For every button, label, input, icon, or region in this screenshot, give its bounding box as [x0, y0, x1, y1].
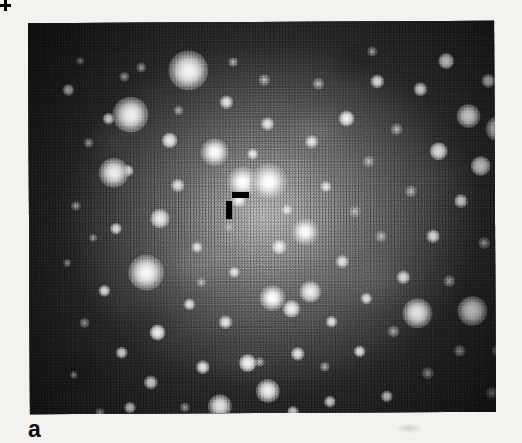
star-point	[402, 298, 432, 328]
star-point	[391, 123, 403, 135]
star-point	[443, 275, 455, 287]
star-point	[218, 315, 232, 329]
tick-horizontal-marker	[232, 192, 249, 198]
star-point	[110, 223, 122, 235]
star-point	[95, 408, 105, 414]
star-point	[305, 135, 319, 149]
panel-label: a	[28, 418, 41, 441]
star-point	[360, 292, 372, 304]
star-point	[349, 206, 361, 218]
astro-image-plate[interactable]	[28, 21, 496, 414]
star-point	[282, 300, 300, 318]
star-point	[255, 357, 265, 367]
vignette-layer	[28, 21, 496, 414]
star-point	[396, 270, 410, 284]
star-point	[62, 84, 74, 96]
star-point	[124, 402, 136, 414]
star-point	[196, 277, 206, 287]
star-point	[119, 72, 129, 82]
star-point	[201, 138, 229, 166]
star-point	[79, 318, 89, 328]
star-point	[454, 194, 468, 208]
star-point	[150, 208, 170, 228]
star-point	[71, 201, 81, 211]
star-point	[76, 57, 84, 65]
star-point	[150, 324, 166, 340]
star-point	[291, 218, 319, 246]
star-point	[250, 163, 288, 201]
star-point	[492, 345, 496, 357]
star-point	[224, 222, 234, 232]
star-point	[320, 362, 330, 372]
star-point	[173, 105, 183, 115]
star-point	[116, 347, 128, 359]
figure-panel: a	[0, 0, 522, 443]
star-point	[422, 367, 434, 379]
star-point	[128, 254, 164, 290]
star-point	[70, 371, 78, 379]
star-point	[291, 347, 305, 361]
star-point	[287, 406, 299, 414]
star-point	[247, 148, 259, 160]
stars-layer	[28, 21, 496, 414]
star-point	[324, 396, 336, 408]
star-point	[122, 165, 134, 177]
halftone-screen-layer	[28, 21, 496, 414]
margin-smudge	[396, 424, 422, 433]
star-point	[438, 53, 454, 69]
star-point	[471, 156, 491, 176]
star-point	[354, 345, 366, 357]
star-point	[426, 229, 440, 243]
star-point	[486, 387, 496, 399]
sky-mottle-layer	[28, 21, 496, 414]
star-point	[228, 57, 238, 67]
star-point	[454, 345, 466, 357]
star-point	[405, 185, 417, 197]
star-point	[63, 259, 71, 267]
star-point	[281, 204, 293, 216]
star-point	[388, 325, 400, 337]
star-point	[98, 285, 110, 297]
star-point	[168, 50, 208, 90]
star-point	[381, 390, 393, 402]
star-point	[363, 155, 375, 167]
star-point	[325, 316, 337, 328]
star-point	[370, 74, 384, 88]
cluster-halo-layer	[28, 21, 496, 414]
star-point	[256, 379, 280, 403]
star-point	[312, 78, 324, 90]
star-point	[299, 281, 321, 303]
sky-background-layer	[28, 21, 496, 414]
star-point	[84, 138, 94, 148]
star-point	[271, 239, 287, 255]
star-point	[335, 255, 349, 269]
star-point	[180, 402, 190, 412]
star-point	[102, 113, 114, 125]
star-point	[171, 178, 185, 192]
star-point	[481, 74, 495, 88]
star-point	[191, 241, 203, 253]
position-cross-marker	[0, 0, 11, 11]
film-grain-layer	[28, 21, 496, 414]
star-point	[258, 74, 270, 86]
star-point	[144, 376, 158, 390]
star-point	[437, 411, 447, 414]
star-point	[430, 142, 448, 160]
star-point	[486, 116, 496, 142]
star-point	[89, 234, 97, 242]
star-point	[228, 266, 240, 278]
star-point	[478, 237, 490, 249]
star-point	[320, 181, 332, 193]
star-point	[183, 298, 195, 310]
star-point	[338, 111, 354, 127]
star-point	[413, 82, 427, 96]
tick-vertical-marker	[226, 201, 232, 219]
star-point	[375, 230, 387, 242]
star-point	[208, 394, 232, 414]
star-point	[367, 46, 377, 56]
star-point	[259, 285, 285, 311]
star-point	[219, 95, 233, 109]
star-point	[196, 360, 210, 374]
star-point	[239, 354, 257, 372]
star-point	[112, 97, 148, 133]
